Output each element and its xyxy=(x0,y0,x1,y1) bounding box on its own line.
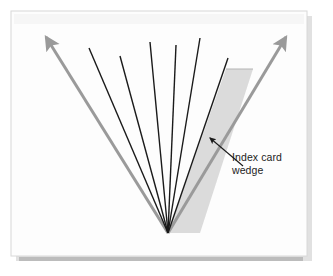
panel-top-tint xyxy=(14,14,304,24)
panel-bottom-shadow-bar xyxy=(19,257,303,261)
diagram-canvas xyxy=(0,0,333,276)
figure-root: Index card wedge xyxy=(0,0,333,276)
